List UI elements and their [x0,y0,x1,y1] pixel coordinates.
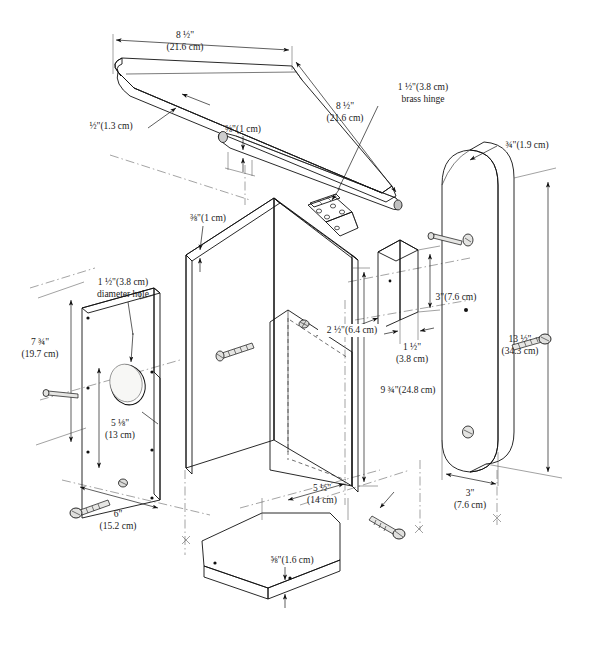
dimension-back-board-height: 13 ½" (34.3 cm) [486,168,562,478]
nest-box-exploded-diagram: 8 ½" (21.6 cm) 8 ½" (21.6 cm) ½"(1.3 cm)… [0,0,602,648]
front-panel-height-line1: 7 ¾" [31,337,49,347]
side-panel-left [186,198,280,474]
front-hole-line1: 1 ½"(3.8 cm) [98,277,148,288]
roof-thickness-label: ½"(1.3 cm) [89,121,132,132]
front-hole-line2: diameter hole [97,289,149,299]
floor-thickness-label: ⅝"(1.6 cm) [270,555,313,566]
dimension-floor-width: 5 ½" (14 cm) [262,483,348,520]
screw-side-panel [216,343,254,361]
hinge-label-line1: 1 ½"(3.8 cm) [398,82,448,93]
front-panel [82,288,160,518]
cleat-thickness-line2: (3.8 cm) [396,354,428,365]
dimension-side-panel-height: 9 ¾"(24.8 cm) [352,268,436,486]
dimension-floor-thickness: ⅝"(1.6 cm) [270,555,313,608]
dimension-roof-cleat: ⅜"(1 cm) [225,124,261,176]
screw-back-board-upper [428,233,462,246]
roof-side-length-line1: 8 ½" [336,101,354,111]
front-panel-width-line1: 6" [114,509,123,519]
screw-floor-pointer [380,492,394,508]
leader-roof-face [182,94,210,105]
roof-top-width-line1: 8 ½" [176,30,194,40]
front-panel-height-line2: (19.7 cm) [22,349,59,360]
back-board-thickness-label: ¾"(1.9 cm) [505,140,548,151]
back-board-width-line2: (7.6 cm) [454,500,486,511]
screw-front-panel-bottom [70,500,110,518]
dimension-roof-top-width: 8 ½" (21.6 cm) [113,30,292,74]
dimension-back-board-width: 3" (7.6 cm) [442,440,498,511]
hole-center-line2: (13 cm) [105,430,135,441]
front-panel-width-line2: (15.2 cm) [100,521,137,532]
cleat-width-label: 2 ½"(6.4 cm) [327,325,377,336]
cleat-thickness-line1: 1 ½" [403,342,421,352]
hinge-label-line2: brass hinge [401,94,444,104]
dimension-cleat-height: 3"(7.6 cm) [418,246,476,312]
dimension-hinge: 1 ½"(3.8 cm) brass hinge [332,82,448,200]
screw-head-inner [299,320,309,328]
roof-top-width-line2: (21.6 cm) [167,42,204,53]
screw-floor [369,516,405,539]
floor-width-line1: 5 ½" [313,483,331,493]
roof-cleat-label: ⅜"(1 cm) [225,124,261,135]
dimension-roof-thickness: ½"(1.3 cm) [89,108,176,132]
side-panel-thickness-label: ⅜"(1 cm) [190,213,226,224]
back-board-width-line1: 3" [466,488,475,498]
hole-center-line1: 5 ⅛" [111,418,129,428]
side-panel-right [274,198,358,492]
alignment-ticks [182,514,501,544]
back-board [442,142,514,472]
side-panel-height-label: 9 ¾"(24.8 cm) [380,385,435,396]
roof-side-length-line2: (21.6 cm) [327,113,364,124]
dimension-cleat-width: 2 ½"(6.4 cm) [316,318,386,337]
dimension-cleat-thickness: 1 ½" (3.8 cm) [384,312,434,365]
dimension-front-panel-height: 7 ¾" (19.7 cm) [22,282,86,445]
floor-width-line2: (14 cm) [307,495,337,506]
mounting-cleat [378,240,418,330]
diagram-canvas: 8 ½" (21.6 cm) 8 ½" (21.6 cm) ½"(1.3 cm)… [0,0,602,648]
